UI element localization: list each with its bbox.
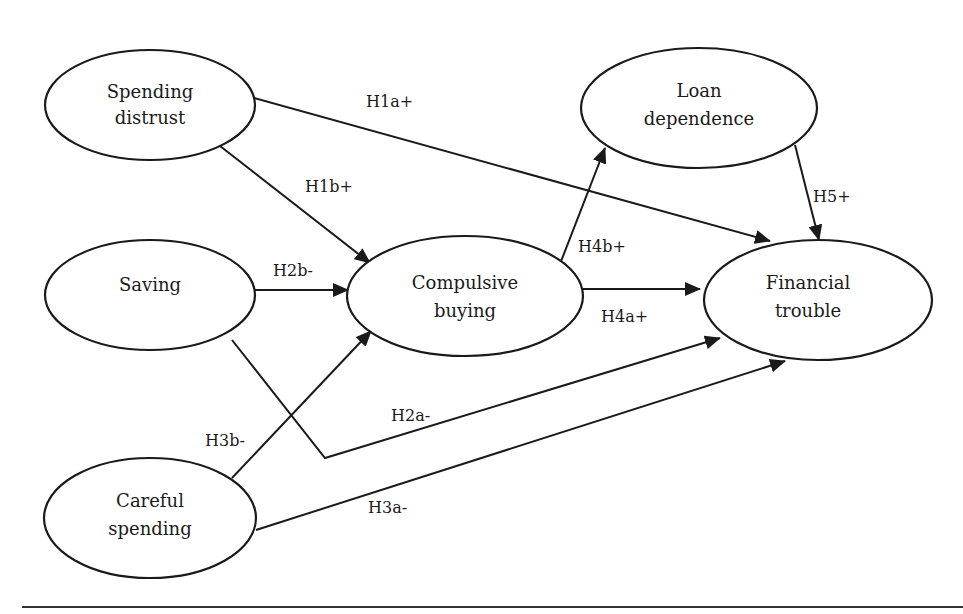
node-spending-distrust: Spending distrust	[45, 50, 255, 160]
edge-h3a	[256, 361, 785, 530]
node-saving: Saving	[45, 240, 255, 350]
edge-label-h3a: H3a-	[368, 498, 407, 517]
edge-label-h4b: H4b+	[578, 237, 626, 256]
node-label: Loan	[676, 80, 722, 101]
node-label: dependence	[644, 108, 754, 129]
edge-label-h2a: H2a-	[391, 406, 430, 425]
node-financial-trouble: Financial trouble	[704, 240, 932, 360]
node-label: spending	[108, 518, 191, 539]
node-label: Compulsive	[412, 272, 518, 293]
edge-label-h2b: H2b-	[273, 261, 313, 280]
node-careful-spending: Careful spending	[44, 458, 256, 578]
edge-label-h3b: H3b-	[205, 431, 245, 450]
node-label: Careful	[116, 490, 184, 511]
edge-label-h1b: H1b+	[305, 177, 353, 196]
node-label: Saving	[119, 274, 181, 295]
node-label: Financial	[766, 272, 851, 293]
node-compulsive-buying: Compulsive buying	[347, 236, 583, 356]
path-diagram: Spending distrust Saving Careful spendin…	[0, 0, 963, 614]
node-label: Spending	[107, 81, 194, 102]
edge-h1b	[220, 146, 370, 263]
node-label: buying	[434, 300, 496, 321]
edge-label-h5: H5+	[813, 187, 851, 206]
node-label: distrust	[115, 107, 186, 128]
edge-label-h1a: H1a+	[366, 92, 413, 111]
edge-h3b	[232, 331, 371, 478]
edge-label-h4a: H4a+	[601, 307, 648, 326]
node-label: trouble	[775, 300, 841, 321]
node-loan-dependence: Loan dependence	[581, 48, 817, 168]
